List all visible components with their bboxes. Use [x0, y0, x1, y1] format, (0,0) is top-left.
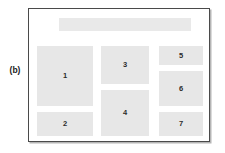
region-6: 6	[159, 71, 203, 106]
region-7: 7	[159, 112, 203, 136]
region-3: 3	[101, 46, 149, 84]
region-4: 4	[101, 90, 149, 136]
page-frame: 1234567	[28, 8, 210, 142]
region-1-label: 1	[63, 72, 67, 80]
region-7-label: 7	[179, 120, 183, 128]
region-3-label: 3	[123, 61, 127, 69]
header-band	[59, 18, 191, 31]
region-5-label: 5	[179, 51, 183, 59]
region-1: 1	[37, 46, 93, 106]
region-2: 2	[37, 112, 93, 136]
region-6-label: 6	[179, 84, 183, 92]
region-5: 5	[159, 46, 203, 65]
region-2-label: 2	[63, 120, 67, 128]
region-4-label: 4	[123, 109, 127, 117]
panel-label: (b)	[4, 65, 26, 75]
figure-panel: (b) 1234567	[0, 0, 225, 153]
